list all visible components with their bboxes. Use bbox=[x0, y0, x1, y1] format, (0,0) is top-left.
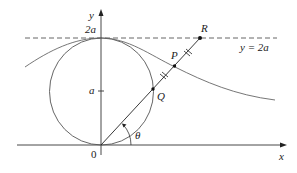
diagram-svg bbox=[0, 0, 297, 173]
angle-label-theta: θ bbox=[135, 130, 140, 141]
y-axis-label: y bbox=[89, 10, 94, 21]
witch-curve bbox=[25, 38, 275, 100]
point-Q bbox=[151, 87, 154, 90]
tick-label-2a: 2a bbox=[85, 24, 96, 35]
point-R bbox=[198, 36, 202, 40]
dashed-line-label: y = 2a bbox=[240, 42, 269, 53]
point-label-Q: Q bbox=[157, 91, 165, 102]
tick-label-a: a bbox=[89, 85, 95, 96]
angle-arc bbox=[123, 125, 131, 146]
y-axis-arrow-icon bbox=[99, 9, 104, 16]
diagram-canvas: y x 0 2a a y = 2a R P Q θ bbox=[0, 0, 297, 173]
x-axis-arrow-icon bbox=[280, 143, 287, 148]
angle-arrow-icon bbox=[122, 124, 127, 128]
point-P bbox=[173, 64, 176, 67]
x-axis-label: x bbox=[279, 151, 284, 162]
point-label-P: P bbox=[171, 50, 178, 61]
origin-label: 0 bbox=[91, 149, 97, 160]
point-label-R: R bbox=[201, 23, 208, 34]
